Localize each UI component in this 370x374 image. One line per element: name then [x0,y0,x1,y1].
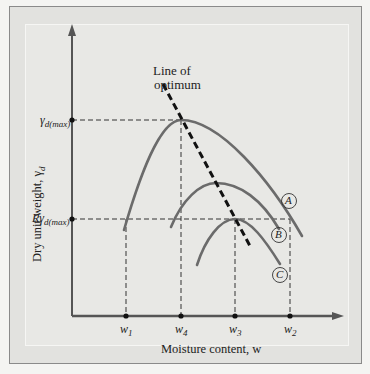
line-of-optimum [163,84,250,246]
y-tick-gamma-max: γd(max) [40,114,70,129]
x-tick-w4: w4 [175,323,188,338]
compaction-curves [124,120,302,265]
y-axis-label: Dry unit weight, γd [30,167,47,262]
curve-label-c: C [276,269,283,280]
guide-lines [72,120,290,316]
x-tick-w2: w2 [284,323,297,338]
x-tick-w1: w1 [120,323,133,338]
curve-label-b: B [275,229,282,240]
x-axis-arrow-icon [332,312,344,320]
compaction-diagram [0,0,370,374]
y-axis-arrow-icon [68,24,76,36]
annotation-line1: Line of [153,64,191,77]
x-tick-w3: w3 [229,323,242,338]
x-axis-label: Moisture content, w [161,343,261,356]
axes [68,24,344,320]
curve-label-a: A [285,195,292,206]
annotation-line2: optimum [154,78,201,91]
